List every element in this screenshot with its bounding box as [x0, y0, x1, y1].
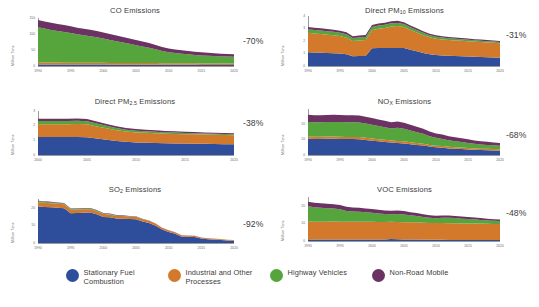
y-axis-label-co: Million Tons: [11, 45, 15, 66]
panel-voc: VOC Emissions-48%Million Tons01020199019…: [270, 179, 539, 262]
y-tick-label: 0: [286, 64, 305, 68]
legend-label: Highway Vehicles: [288, 268, 348, 277]
chart-title-subscript: 2.5: [129, 100, 137, 106]
y-tick-label: 2: [16, 123, 35, 127]
x-tick-label: 1990: [28, 246, 48, 250]
x-axis-line: [308, 241, 500, 242]
y-tick-label: 4: [286, 14, 305, 18]
x-tick-label: 1995: [330, 158, 350, 162]
x-tick-label: 2005: [394, 69, 414, 73]
x-tick-label: 2020: [224, 69, 244, 73]
chart-title-co: CO Emissions: [0, 6, 270, 15]
y-tick-label: 1: [286, 51, 305, 55]
panel-pm25: Direct PM2.5 Emissions-38%Million Tons01…: [0, 91, 270, 179]
chart-legend: Stationary Fuel CombustionIndustrial and…: [0, 264, 539, 307]
chart-title-tail: Emissions: [137, 97, 175, 106]
emissions-trends-figure: CO Emissions-70%Million Tons050100150199…: [0, 0, 539, 307]
x-tick-label: 2000: [362, 69, 382, 73]
chart-title-pm25: Direct PM2.5 Emissions: [0, 97, 270, 106]
x-tick-label: 2020: [224, 158, 244, 162]
legend-item-nonroad[interactable]: Non-Road Mobile: [372, 268, 474, 282]
y-tick-label: 2: [286, 39, 305, 43]
legend-label: Industrial and Other Processes: [186, 268, 270, 287]
x-tick-label: 2020: [490, 158, 510, 162]
legend-item-stationary[interactable]: Stationary Fuel Combustion: [66, 268, 168, 287]
x-tick-label: 2000: [362, 244, 382, 248]
y-tick-label: 10: [16, 223, 35, 227]
x-axis-line: [38, 155, 234, 156]
chart-title-pm10: Direct PM10 Emissions: [270, 6, 539, 15]
panel-pm10: Direct PM10 Emissions-31%Million Tons012…: [270, 0, 539, 91]
x-axis-line: [38, 66, 234, 67]
y-tick-label: 0: [16, 64, 35, 68]
y-tick-label: 0: [286, 239, 305, 243]
chart-title-text: Direct PM: [365, 6, 400, 15]
chart-title-tail: Emissions: [393, 97, 431, 106]
percent-change-so2: -92%: [243, 219, 263, 229]
y-tick-label: 100: [16, 32, 35, 36]
x-tick-label: 2015: [175, 158, 195, 162]
x-tick-label: 2015: [191, 246, 211, 250]
chart-title-subscript: 2: [120, 188, 123, 194]
y-tick-label: 20: [286, 122, 305, 126]
x-tick-label: 2005: [77, 158, 97, 162]
area-series-highway: [308, 206, 500, 224]
y-axis-label-pm10: Million Tons: [281, 45, 285, 66]
x-tick-label: 2010: [159, 69, 179, 73]
percent-change-pm25: -38%: [243, 118, 263, 128]
y-tick-label: 50: [16, 48, 35, 52]
y-tick-label: 0: [16, 153, 35, 157]
x-tick-label: 2015: [458, 69, 478, 73]
x-tick-label: 2015: [191, 69, 211, 73]
percent-change-nox: -68%: [506, 130, 526, 140]
chart-title-text: Direct PM: [95, 97, 130, 106]
x-tick-label: 2000: [93, 69, 113, 73]
x-tick-label: 1995: [330, 69, 350, 73]
chart-title-text: NO: [378, 97, 390, 106]
legend-label: Stationary Fuel Combustion: [84, 268, 168, 287]
legend-swatch-icon: [372, 269, 385, 282]
x-tick-label: 2015: [458, 158, 478, 162]
legend-item-industrial[interactable]: Industrial and Other Processes: [168, 268, 270, 287]
legend-label: Non-Road Mobile: [390, 268, 449, 277]
y-tick-label: 10: [286, 137, 305, 141]
y-tick-label: 10: [286, 221, 305, 225]
y-tick-label: 20: [286, 204, 305, 208]
y-tick-label: 3: [16, 109, 35, 113]
x-tick-label: 1990: [298, 158, 318, 162]
x-tick-label: 2005: [394, 158, 414, 162]
y-tick-label: 0: [16, 241, 35, 245]
x-tick-label: 2020: [224, 246, 244, 250]
plot-area-pm10: [308, 16, 500, 66]
plot-area-so2: [38, 199, 234, 243]
y-tick-label: 150: [16, 16, 35, 20]
chart-title-subscript: 10: [400, 9, 406, 15]
y-tick-label: 20: [16, 206, 35, 210]
chart-title-tail: Emissions: [406, 6, 444, 15]
chart-title-tail: Emissions: [123, 185, 161, 194]
area-series-stationary: [38, 206, 234, 243]
x-tick-label: 2000: [28, 158, 48, 162]
chart-title-nox: NOX Emissions: [270, 97, 539, 106]
x-tick-label: 2005: [126, 246, 146, 250]
x-tick-label: 1995: [61, 69, 81, 73]
x-tick-label: 1995: [61, 246, 81, 250]
x-tick-label: 2020: [490, 244, 510, 248]
chart-title-so2: SO2 Emissions: [0, 185, 270, 194]
x-tick-label: 1990: [28, 69, 48, 73]
legend-swatch-icon: [66, 269, 79, 282]
legend-item-highway[interactable]: Highway Vehicles: [270, 268, 372, 282]
panel-so2: SO2 Emissions-92%Million Tons01020199019…: [0, 179, 270, 262]
panel-co: CO Emissions-70%Million Tons050100150199…: [0, 0, 270, 91]
percent-change-co: -70%: [243, 36, 263, 46]
chart-title-text: SO: [109, 185, 120, 194]
plot-area-co: [38, 18, 234, 66]
chart-title-subscript: X: [389, 100, 393, 106]
x-tick-label: 1990: [298, 69, 318, 73]
y-axis-label-so2: Million Tons: [11, 222, 15, 243]
area-series-industrial: [308, 221, 500, 240]
chart-title-voc: VOC Emissions: [270, 185, 539, 194]
percent-change-voc: -48%: [506, 208, 526, 218]
legend-swatch-icon: [168, 269, 181, 282]
x-tick-label: 1995: [330, 244, 350, 248]
